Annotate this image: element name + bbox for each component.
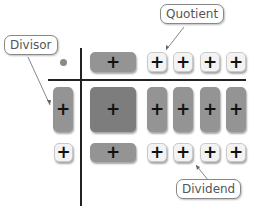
divisor-label: Divisor [4,35,58,55]
dividend-label: Dividend [176,179,241,199]
quotient-label: Quotient [160,4,224,24]
